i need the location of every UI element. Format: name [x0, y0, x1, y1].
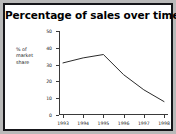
x-axis-tick-label: 1994: [77, 121, 89, 126]
chart-figure: Percentage of sales over time % of marke…: [0, 0, 176, 134]
x-axis-tick-label: 1996: [118, 121, 130, 126]
x-axis-tick-label: 1993: [57, 121, 69, 126]
y-axis-tick-label: 10: [46, 96, 52, 101]
title-divider: [14, 24, 162, 25]
x-axis-tick: 1996: [124, 115, 125, 118]
x-axis-tick: 1995: [103, 115, 104, 118]
x-axis-tick-label: 1997: [138, 121, 150, 126]
x-axis-tick: 1998: [164, 115, 165, 118]
x-axis-tick: 1997: [144, 115, 145, 118]
y-axis-tick: 0: [56, 115, 59, 116]
y-axis-tick-label: 20: [46, 79, 52, 84]
y-axis-label: % of market share: [16, 47, 46, 66]
y-axis-tick-label: 30: [46, 62, 52, 67]
y-axis-tick-label: 40: [46, 45, 52, 50]
chart-title: Percentage of sales over time: [5, 9, 171, 21]
y-axis-tick-label: 0: [49, 113, 52, 118]
x-axis-tick-label: 1995: [98, 121, 110, 126]
x-axis-tick-label: 1998: [158, 121, 170, 126]
x-axis-tick: 1993: [63, 115, 64, 118]
y-axis-label-line-3: share: [16, 60, 46, 66]
plot-area: 01020304050 199319941995199619971998: [59, 31, 168, 115]
x-axis-tick: 1994: [83, 115, 84, 118]
data-series-line: [59, 31, 168, 115]
figure-frame: Percentage of sales over time % of marke…: [3, 3, 173, 131]
series-polyline: [63, 55, 164, 102]
figure-inner-panel: Percentage of sales over time % of marke…: [5, 5, 171, 129]
y-axis-tick-label: 50: [46, 29, 52, 34]
